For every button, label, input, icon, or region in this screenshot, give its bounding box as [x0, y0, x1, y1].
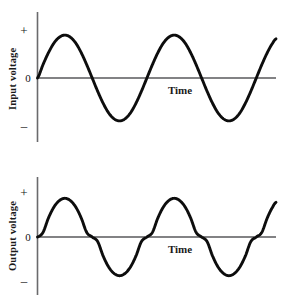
output-voltage-chart: + 0 – Output voltage Time: [0, 153, 288, 306]
input-ytick-minus: –: [20, 118, 28, 133]
input-voltage-chart: + 0 – Input voltage Time: [0, 0, 288, 153]
waveform-figure: + 0 – Input voltage Time + 0 – Output vo…: [0, 0, 288, 306]
input-ytick-plus: +: [20, 23, 27, 38]
output-y-axis-title: Output voltage: [7, 201, 18, 271]
output-x-axis-title: Time: [168, 243, 192, 255]
output-ytick-zero: 0: [25, 231, 31, 243]
input-chart-svg: + 0 – Input voltage Time: [0, 0, 288, 153]
input-x-axis-title: Time: [168, 84, 192, 96]
output-ytick-plus: +: [20, 185, 27, 200]
input-y-axis-title: Input voltage: [7, 47, 18, 110]
output-ytick-minus: –: [20, 273, 28, 288]
output-chart-svg: + 0 – Output voltage Time: [0, 153, 288, 306]
input-ytick-zero: 0: [25, 72, 31, 84]
